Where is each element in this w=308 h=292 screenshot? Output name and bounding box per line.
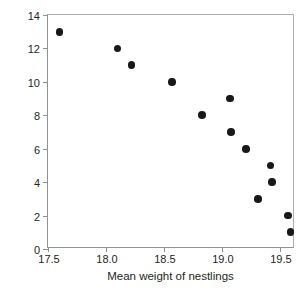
x-axis-tick: 18.5 (164, 247, 165, 252)
y-axis-tick: 12 (43, 48, 48, 49)
x-axis-tick-label: 19.5 (270, 253, 291, 265)
y-axis-tick-label: 14 (28, 10, 40, 22)
data-point (267, 162, 275, 170)
x-axis-tick: 19.5 (280, 247, 281, 252)
data-point (128, 61, 136, 69)
data-point (227, 128, 235, 136)
y-axis-tick: 14 (43, 15, 48, 16)
data-point (226, 95, 234, 103)
x-axis-tick: 19.0 (222, 247, 223, 252)
x-axis-tick-label: 18.5 (154, 253, 175, 265)
y-axis-tick: 2 (43, 216, 48, 217)
data-point (284, 212, 292, 220)
data-point (168, 78, 176, 86)
x-axis-tick-label: 19.0 (212, 253, 233, 265)
x-axis-tick-label: 17.5 (38, 253, 59, 265)
data-point (114, 45, 122, 53)
y-axis-tick-label: 8 (34, 110, 40, 122)
y-axis-tick: 4 (43, 182, 48, 183)
scatter-plot-figure: 02468101214 17.518.018.519.019.5 Mean we… (0, 0, 308, 292)
y-axis-tick-label: 12 (28, 43, 40, 55)
x-axis-tick: 17.5 (48, 247, 49, 252)
y-axis-tick: 6 (43, 149, 48, 150)
y-axis-tick-label: 2 (34, 211, 40, 223)
x-axis-tick: 18.0 (106, 247, 107, 252)
plot-area: 02468101214 17.518.018.519.019.5 (47, 14, 294, 248)
data-point (198, 111, 206, 119)
data-point (268, 178, 276, 186)
x-axis-tick-label: 18.0 (96, 253, 117, 265)
data-point (242, 145, 250, 153)
data-point (287, 228, 295, 236)
y-axis-tick-label: 4 (34, 177, 40, 189)
data-point (56, 28, 64, 36)
y-axis-tick-label: 10 (28, 77, 40, 89)
y-axis-tick-label: 6 (34, 144, 40, 156)
y-axis-tick: 10 (43, 82, 48, 83)
data-point (254, 195, 262, 203)
y-axis-tick: 8 (43, 115, 48, 116)
x-axis-label: Mean weight of nestlings (47, 270, 294, 282)
